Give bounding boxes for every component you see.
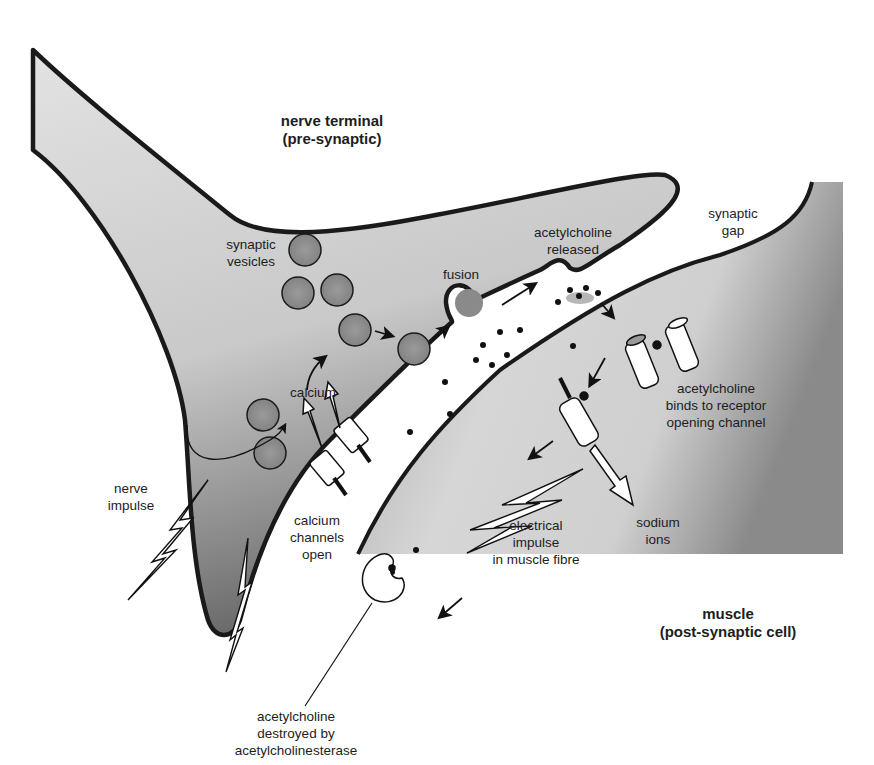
acetylcholine-binds-label: acetylcholine binds to receptor opening … bbox=[666, 380, 767, 431]
acetylcholine-destroyed-label: acetylcholine destroyed by acetylcholine… bbox=[235, 708, 357, 759]
vesicle bbox=[289, 234, 321, 266]
vesicle bbox=[282, 277, 314, 309]
nerve-terminal-label: nerve terminal (pre-synaptic) bbox=[281, 112, 384, 148]
sodium-ions-label: sodium ions bbox=[636, 514, 680, 548]
acetylcholine-released-label: acetylcholine released bbox=[534, 224, 612, 258]
fusing-vesicle bbox=[455, 289, 483, 317]
electrical-impulse-label: electrical impulse in muscle fibre bbox=[492, 517, 579, 568]
acetylcholinesterase-enzyme bbox=[305, 554, 404, 706]
synaptic-vesicles-label: synaptic vesicles bbox=[226, 236, 276, 270]
synaptic-gap-label: synaptic gap bbox=[708, 205, 758, 239]
vesicle bbox=[339, 314, 371, 346]
fusion-label: fusion bbox=[443, 266, 479, 283]
vesicle bbox=[247, 399, 279, 431]
calcium-label: calcium bbox=[290, 384, 336, 401]
vesicle bbox=[321, 274, 353, 306]
vesicle bbox=[254, 437, 286, 469]
muscle-label: muscle (post-synaptic cell) bbox=[660, 605, 797, 641]
calcium-channels-label: calcium channels open bbox=[290, 512, 344, 563]
vesicle bbox=[398, 333, 430, 365]
nerve-impulse-label: nerve impulse bbox=[108, 480, 155, 514]
